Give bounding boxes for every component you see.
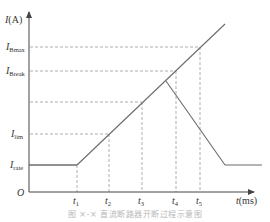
figure-caption: 图 ×-× 直流断路器开断过程示意图 (0, 208, 270, 219)
tick-t4: t4 (172, 196, 178, 208)
tick-t1: t1 (73, 196, 79, 208)
origin-label: O (17, 188, 24, 198)
y-axis-label: I(A) (5, 15, 22, 25)
horizontal-guides (30, 47, 200, 134)
rising-current-line (77, 24, 225, 165)
label-i-bmax: IBmax (6, 42, 25, 54)
label-i-break: IBreak (6, 66, 25, 78)
current-time-diagram: I(A) IBmax IBreak Ilim Irate O t1 t2 t3 … (0, 0, 270, 222)
tick-t3: t3 (138, 196, 144, 208)
x-axis-label: t(ms) (236, 196, 257, 206)
tick-t5: t5 (196, 196, 202, 208)
label-i-rate: Irate (10, 160, 23, 172)
vertical-guides (77, 47, 200, 192)
falling-current-line (166, 81, 225, 165)
tick-t2: t2 (105, 196, 111, 208)
diagram-canvas (0, 0, 270, 222)
label-i-lim: Ilim (11, 129, 23, 141)
